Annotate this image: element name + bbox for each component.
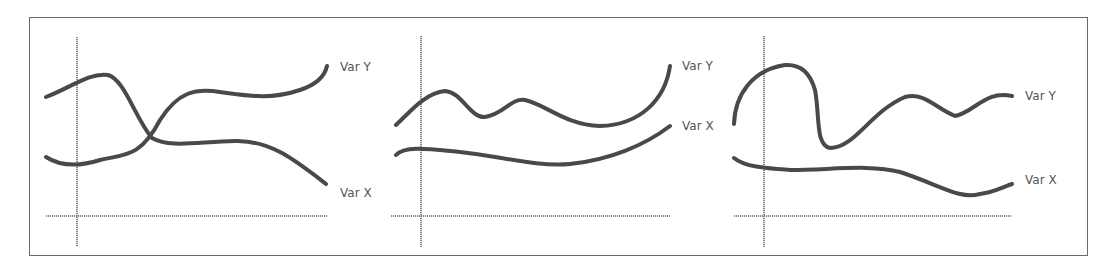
panel-3-var-y-curve	[734, 65, 1012, 148]
figure-canvas: Var Y Var X Var Y Var X Var Y Var X	[0, 0, 1114, 267]
panel-3-var-x-label: Var X	[1025, 173, 1057, 187]
panel-1-var-y-label: Var Y	[340, 60, 371, 74]
panel-3-var-y-label: Var Y	[1025, 89, 1056, 103]
panel-1-var-x-curve	[46, 75, 326, 184]
panel-1-var-x-label: Var X	[340, 186, 372, 200]
panel-2-var-x-curve	[396, 126, 670, 165]
panel-2: Var Y Var X	[391, 36, 714, 247]
panel-2-var-y-curve	[396, 66, 670, 126]
panel-3-var-x-curve	[734, 158, 1012, 195]
panel-1-var-y-curve	[46, 66, 327, 165]
panel-2-var-y-label: Var Y	[682, 59, 713, 73]
panel-3: Var Y Var X	[734, 36, 1057, 247]
panel-1: Var Y Var X	[46, 37, 372, 247]
panel-2-var-x-label: Var X	[682, 119, 714, 133]
